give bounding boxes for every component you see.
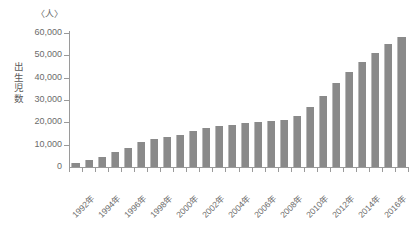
- bar: [189, 131, 197, 167]
- x-axis-tick: [82, 168, 83, 172]
- bar: [150, 139, 158, 167]
- y-axis-tick-label-text: 50,000: [2, 49, 62, 59]
- y-axis-tick-label: 60,000: [0, 27, 62, 38]
- bar: [137, 142, 145, 167]
- x-axis-tick: [108, 168, 109, 172]
- y-axis-tick-label-text: 60,000: [2, 27, 62, 37]
- y-axis-tick-label: 50,000: [0, 49, 62, 60]
- x-axis-tick: [134, 168, 135, 172]
- y-axis-tick-label: 40,000: [0, 72, 62, 83]
- bar: [241, 123, 249, 167]
- y-axis-tick-label: 30,000: [0, 94, 62, 105]
- y-axis-tick-label: 0: [0, 161, 62, 172]
- x-axis-tick-label-text: 1992年: [68, 192, 96, 220]
- x-axis-tick: [369, 168, 370, 172]
- x-axis-tick: [225, 168, 226, 172]
- bar: [345, 72, 353, 167]
- bar: [163, 137, 171, 167]
- bar: [85, 160, 93, 167]
- x-axis-tick: [121, 168, 122, 172]
- y-axis-tick-label: 20,000: [0, 116, 62, 127]
- bar: [306, 107, 314, 167]
- x-axis-tick: [186, 168, 187, 172]
- bar: [384, 44, 392, 167]
- bar: [254, 122, 262, 167]
- y-axis-unit-label: 〈人〉: [36, 7, 63, 20]
- x-axis-tick: [278, 168, 279, 172]
- bar: [358, 62, 366, 167]
- x-axis-tick: [95, 168, 96, 172]
- x-axis-tick: [356, 168, 357, 172]
- bar: [332, 83, 340, 167]
- y-axis-tick-label-text: 10,000: [2, 139, 62, 149]
- x-axis-tick: [173, 168, 174, 172]
- bar: [228, 125, 236, 167]
- bar: [176, 135, 184, 167]
- x-axis-tick: [317, 168, 318, 172]
- x-axis-tick: [199, 168, 200, 172]
- x-axis-tick: [147, 168, 148, 172]
- bar: [397, 37, 405, 167]
- y-axis-title-char: 児: [12, 83, 26, 94]
- x-axis-tick: [408, 168, 409, 172]
- x-axis-tick: [343, 168, 344, 172]
- y-axis-tick-label-text: 40,000: [2, 72, 62, 82]
- bar: [111, 152, 119, 167]
- y-axis-tick-label-text: 20,000: [2, 116, 62, 126]
- x-axis-tick: [69, 168, 70, 172]
- x-axis-tick: [395, 168, 396, 172]
- y-axis-tick-label-text: 0: [2, 161, 62, 171]
- bars-container: [69, 33, 408, 167]
- bar: [215, 126, 223, 167]
- x-axis-tick: [160, 168, 161, 172]
- x-axis-tick: [239, 168, 240, 172]
- y-axis-tick-label: 10,000: [0, 139, 62, 150]
- bar: [280, 120, 288, 167]
- x-axis-tick: [265, 168, 266, 172]
- bar: [98, 157, 106, 167]
- x-axis-tick-label: 2016年: [397, 176, 420, 204]
- x-axis-tick: [330, 168, 331, 172]
- x-axis-tick: [291, 168, 292, 172]
- bar: [202, 128, 210, 167]
- x-axis-tick: [212, 168, 213, 172]
- y-axis-tick-label-text: 30,000: [2, 94, 62, 104]
- bar: [267, 121, 275, 167]
- x-axis-tick: [252, 168, 253, 172]
- bar: [124, 148, 132, 167]
- x-axis-tick: [382, 168, 383, 172]
- bar: [371, 53, 379, 167]
- bar: [71, 163, 79, 167]
- bar: [293, 116, 301, 167]
- bar: [319, 96, 327, 167]
- x-axis-tick: [304, 168, 305, 172]
- birth-count-bar-chart: 〈人〉 出 生 児 数 010,00020,00030,00040,00050,…: [0, 0, 420, 230]
